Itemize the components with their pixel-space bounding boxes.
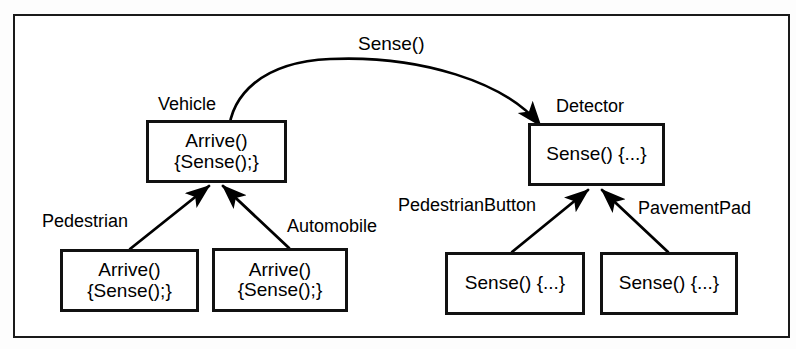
class-box-automobile-line2: {Sense();} <box>238 280 323 300</box>
class-box-vehicle[interactable]: Arrive() {Sense();} <box>146 120 287 183</box>
class-box-detector-line1: Sense() {...} <box>546 144 646 164</box>
class-box-pedestrian-line2: {Sense();} <box>87 281 172 301</box>
class-box-vehicle-line2: {Sense();} <box>174 152 259 172</box>
diagram-canvas: Sense() Vehicle Arrive() {Sense();} Pede… <box>0 0 796 349</box>
class-box-pedestrianbutton[interactable]: Sense() {...} <box>445 252 585 315</box>
class-box-automobile[interactable]: Arrive() {Sense();} <box>212 248 348 312</box>
sense-message-label: Sense() <box>358 34 425 53</box>
class-box-pedestrianbutton-line1: Sense() {...} <box>465 273 565 293</box>
class-name-pedestrian: Pedestrian <box>42 212 128 230</box>
class-name-automobile: Automobile <box>287 217 377 235</box>
class-box-detector[interactable]: Sense() {...} <box>528 123 665 186</box>
class-name-detector: Detector <box>556 97 624 115</box>
class-box-pavementpad-line1: Sense() {...} <box>619 273 719 293</box>
class-name-pedestrianbutton: PedestrianButton <box>398 196 536 214</box>
class-box-pedestrian-line1: Arrive() <box>98 260 160 280</box>
class-box-pedestrian[interactable]: Arrive() {Sense();} <box>60 249 199 312</box>
class-name-pavementpad: PavementPad <box>638 199 751 217</box>
class-name-vehicle: Vehicle <box>158 95 216 113</box>
class-box-vehicle-line1: Arrive() <box>185 131 247 151</box>
class-box-automobile-line1: Arrive() <box>249 260 311 280</box>
class-box-pavementpad[interactable]: Sense() {...} <box>600 252 738 315</box>
